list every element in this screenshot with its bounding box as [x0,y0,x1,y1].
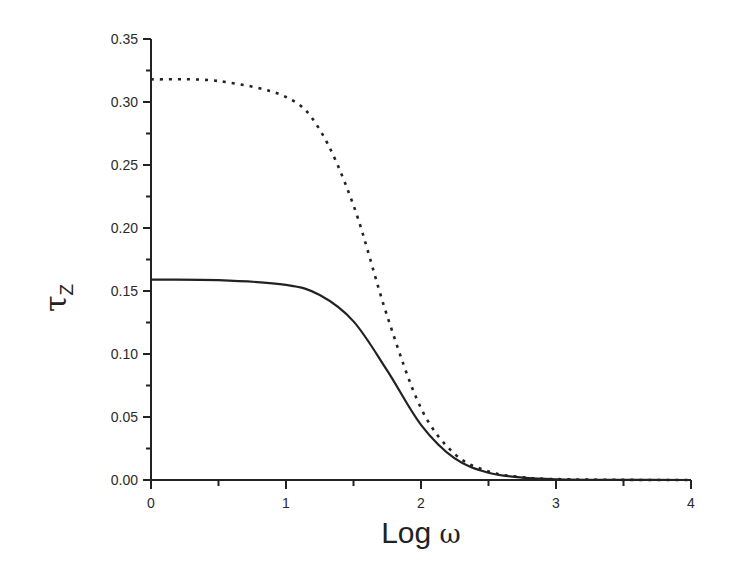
solid-curve [151,280,691,480]
x-ticks: 01234 [147,480,695,511]
y-axis-title: τZ [38,262,88,312]
y-tick-label: 0.05 [111,409,138,425]
y-tick-label: 0.25 [111,157,138,173]
x-tick-label: 0 [147,495,155,511]
x-tick-label: 2 [417,495,425,511]
x-axis-title: Log ω [381,516,461,549]
chart: 0.000.050.100.150.200.250.300.35 01234 L… [0,0,737,579]
x-tick-label: 3 [552,495,560,511]
plot-lines [151,79,691,480]
y-tick-label: 0.00 [111,472,138,488]
axes [151,39,691,480]
y-ticks: 0.000.050.100.150.200.250.300.35 [111,31,151,488]
y-tick-label: 0.35 [111,31,138,47]
x-tick-label: 1 [282,495,290,511]
y-tick-label: 0.15 [111,283,138,299]
dotted-curve [151,79,691,480]
y-tick-label: 0.30 [111,94,138,110]
y-tick-label: 0.20 [111,220,138,236]
y-tick-label: 0.10 [111,346,138,362]
x-tick-label: 4 [687,495,695,511]
